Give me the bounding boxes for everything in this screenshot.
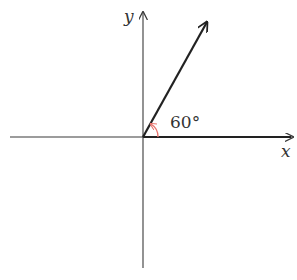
- angle-arc: [151, 124, 158, 137]
- angle-diagram: x y 60°: [0, 0, 297, 280]
- y-axis-label: y: [123, 6, 134, 26]
- x-axis-label: x: [281, 141, 291, 161]
- angle-label: 60°: [170, 112, 200, 132]
